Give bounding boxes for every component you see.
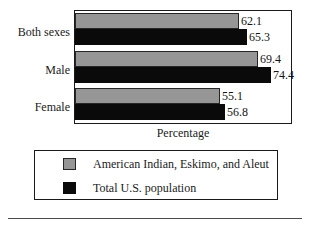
footer-divider xyxy=(8,218,302,219)
bar-both-sexes-total-us xyxy=(75,29,247,45)
legend-swatch-icon xyxy=(63,158,76,170)
bar-group-male: 69.4 74.4 xyxy=(75,51,291,87)
chart-legend: American Indian, Eskimo, and Aleut Total… xyxy=(34,150,278,200)
bar-value-label: 65.3 xyxy=(247,31,270,43)
y-axis-tick-label-female: Female xyxy=(0,101,70,113)
bar-value-label: 74.4 xyxy=(271,69,294,81)
y-axis-tick-label-male: Male xyxy=(0,64,70,76)
legend-label: American Indian, Eskimo, and Aleut xyxy=(93,157,269,171)
bar-value-label: 62.1 xyxy=(239,15,262,27)
plot-canvas: 62.1 65.3 69.4 74.4 xyxy=(75,11,291,123)
bar-male-total-us xyxy=(75,67,271,83)
x-axis-title: Percentage xyxy=(74,127,292,140)
bar-male-american-indian xyxy=(75,51,258,67)
y-axis-tick-label-both-sexes: Both sexes xyxy=(0,26,70,38)
bar-value-label: 55.1 xyxy=(220,90,243,102)
legend-entry-american-indian: American Indian, Eskimo, and Aleut xyxy=(35,152,277,176)
bar-group-female: 55.1 56.8 xyxy=(75,88,291,124)
bar-chart-figure: Both sexes Male Female 62.1 65.3 69.4 xyxy=(0,0,310,230)
bar-female-total-us xyxy=(75,104,225,120)
legend-swatch-icon xyxy=(63,182,76,194)
legend-label: Total U.S. population xyxy=(93,181,196,195)
bar-group-both-sexes: 62.1 65.3 xyxy=(75,13,291,49)
bar-value-label: 69.4 xyxy=(258,53,281,65)
bar-both-sexes-american-indian xyxy=(75,13,239,29)
bar-value-label: 56.8 xyxy=(225,106,248,118)
legend-entry-total-us: Total U.S. population xyxy=(35,176,277,200)
plot-area: 62.1 65.3 69.4 74.4 xyxy=(74,10,292,124)
bar-female-american-indian xyxy=(75,88,220,104)
